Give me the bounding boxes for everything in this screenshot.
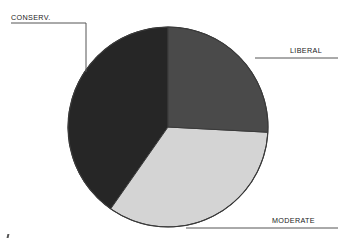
pie-label-liberal: LIBERAL [290, 46, 322, 55]
pie-label-moderate: MODERATE [272, 216, 315, 225]
pie-label-conserv: CONSERV. [11, 13, 51, 22]
pie-chart-figure [0, 0, 339, 244]
